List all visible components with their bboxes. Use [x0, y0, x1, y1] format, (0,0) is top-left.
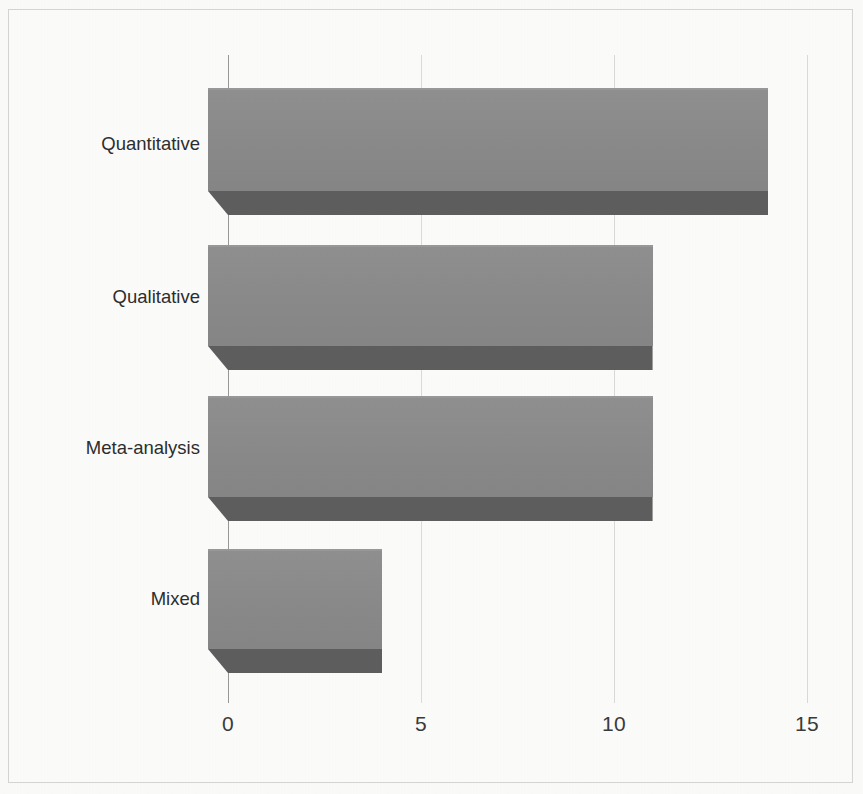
chart-page: 0 5 10 15 — [0, 0, 863, 794]
x-tick-label-15: 15 — [777, 712, 837, 736]
x-tick-label-5: 5 — [391, 712, 451, 736]
gridline-15 — [807, 55, 808, 703]
bar-qualitative-depth-face — [208, 346, 653, 370]
category-label-mixed: Mixed — [0, 588, 200, 610]
category-label-meta-analysis: Meta-analysis — [0, 437, 200, 459]
bar-meta-analysis-front-face — [208, 398, 653, 497]
bar-qualitative-front-face — [208, 247, 653, 346]
plot-area: 0 5 10 15 — [0, 0, 863, 794]
bar-mixed-depth-face — [208, 649, 382, 673]
bar-meta-analysis-depth-face — [208, 497, 653, 521]
x-tick-label-10: 10 — [584, 712, 644, 736]
category-label-quantitative: Quantitative — [0, 133, 200, 155]
bar-mixed-front-face — [208, 551, 382, 649]
category-label-qualitative: Qualitative — [0, 286, 200, 308]
bar-quantitative-depth-face — [208, 191, 768, 215]
bar-quantitative-front-face — [208, 90, 768, 191]
x-tick-label-0: 0 — [198, 712, 258, 736]
